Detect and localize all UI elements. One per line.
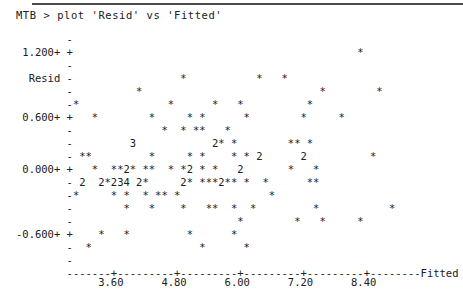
plot-row: - * * ** *	[16, 124, 459, 137]
plot-row: - ** * * * * * 2 2 *	[16, 150, 459, 163]
plot-row: -* * * * ** * *	[16, 189, 459, 202]
x-axis-tick-labels: 3.60 4.80 6.00 7.20 8.40	[16, 276, 376, 288]
plot-row: 0.600+ + * * * * * * *	[16, 111, 459, 124]
plot-row: 0.000+ + * **2* ** * *2 * * 2 * *	[16, 163, 459, 176]
plot-row: -	[16, 59, 459, 72]
plot-row: - * * *	[16, 85, 459, 98]
plot-row: -	[16, 33, 459, 46]
plot-row: -* * * * *	[16, 98, 459, 111]
window-top-rule	[32, 3, 463, 5]
command-prompt-line: MTB > plot 'Resid' vs 'Fitted'	[16, 9, 222, 21]
plot-row: -	[16, 254, 459, 267]
plot-row: - * * * ** * * * *	[16, 202, 459, 215]
plot-row: -0.600+ + * * * *	[16, 228, 459, 241]
plot-row: - * * *	[16, 241, 459, 254]
minitab-session-window: MTB > plot 'Resid' vs 'Fitted' - 1.200+ …	[0, 0, 463, 306]
plot-row: - * * * *	[16, 215, 459, 228]
plot-row: - 2 2*234 2* 2* ***2** * * **	[16, 176, 459, 189]
character-scatter-plot: - 1.200+ + * - Resid - * * * - * * * -* …	[16, 33, 459, 280]
plot-row: Resid - * * *	[16, 72, 459, 85]
plot-row: - 3 2* * ** *	[16, 137, 459, 150]
plot-row: 1.200+ + *	[16, 46, 459, 59]
